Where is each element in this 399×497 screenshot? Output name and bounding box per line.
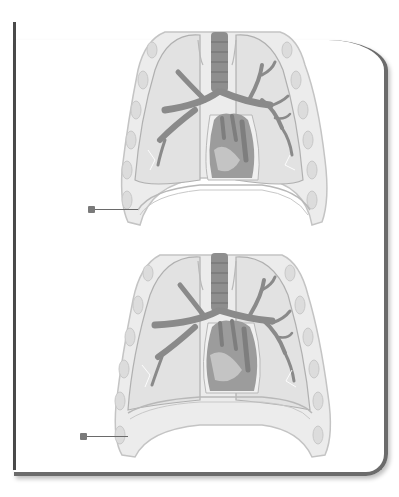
label-marker-square <box>88 206 95 213</box>
thorax-illustration <box>0 10 399 235</box>
label-pointer-diaphragm <box>88 206 138 214</box>
figure-thorax-inhalation <box>0 245 399 470</box>
thorax-illustration <box>0 245 399 470</box>
label-marker-square <box>80 433 87 440</box>
leader-line <box>95 209 138 210</box>
diagram-frame <box>0 0 399 497</box>
trachea <box>211 253 228 311</box>
label-pointer-diaphragm <box>80 433 128 441</box>
leader-line <box>87 436 128 437</box>
figure-thorax-exhalation <box>0 10 399 235</box>
